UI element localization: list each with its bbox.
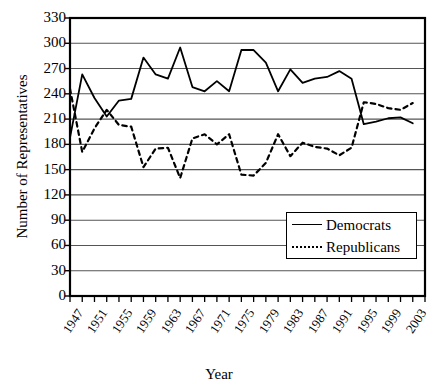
legend-label-republicans: Republicans: [326, 240, 400, 255]
legend-label-democrats: Democrats: [326, 218, 391, 233]
legend-item-republicans: Republicans: [292, 236, 400, 258]
chart-legend: Democrats Republicans: [286, 212, 417, 259]
legend-item-democrats: Democrats: [292, 214, 391, 236]
legend-swatch-solid-line-icon: [292, 219, 322, 231]
legend-swatch-dashed-line-icon: [292, 241, 322, 253]
x-axis-tick-labels: 1947195119551959196319671971197519791983…: [0, 0, 438, 388]
chart-container: Number of Representatives Year 030609012…: [0, 0, 438, 388]
